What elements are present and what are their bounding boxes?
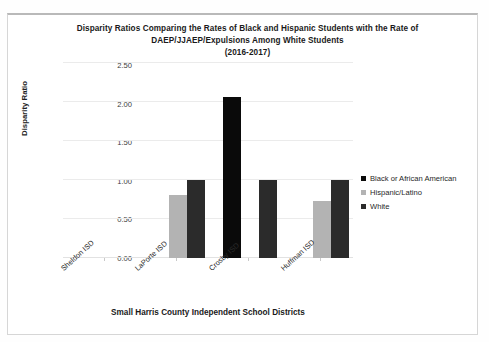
legend-swatch-black-icon — [361, 176, 366, 181]
bar-huffman-white[interactable] — [331, 180, 349, 258]
plot-area — [63, 62, 353, 258]
legend-swatch-dark-icon — [361, 204, 366, 209]
legend-item-hispanic-latino[interactable]: Hispanic/Latino — [361, 185, 457, 199]
bar-laporte-hispanic[interactable] — [169, 195, 187, 258]
bar-group-laporte-isd — [145, 62, 207, 258]
bar-group-sheldon-isd — [73, 62, 135, 258]
bar-chart: Disparity Ratios Comparing the Rates of … — [0, 0, 489, 342]
legend-label-black-or-african-american: Black or African American — [370, 174, 457, 183]
chart-title-line-1: Disparity Ratios Comparing the Rates of … — [40, 23, 455, 35]
bar-huffman-hispanic[interactable] — [313, 201, 331, 258]
legend-item-white[interactable]: White — [361, 199, 457, 213]
bar-laporte-white[interactable] — [187, 180, 205, 258]
x-tick-mark-sheldon — [104, 258, 105, 261]
y-axis-label: Disparity Ratio — [20, 81, 29, 136]
legend-label-hispanic-latino: Hispanic/Latino — [370, 188, 422, 197]
legend-label-white: White — [370, 202, 389, 211]
bar-crosby-white[interactable] — [259, 180, 277, 258]
chart-title-line-3: (2016-2017) — [40, 47, 455, 59]
bar-group-crosby-isd — [217, 62, 279, 258]
x-tick-mark-laporte — [176, 258, 177, 261]
legend-item-black-or-african-american[interactable]: Black or African American — [361, 171, 457, 185]
x-tick-mark-huffman — [320, 258, 321, 261]
chart-title-line-2: DAEP/JJAEP/Expulsions Among White Studen… — [40, 35, 455, 47]
screenshot-page: Disparity Ratios Comparing the Rates of … — [0, 0, 489, 342]
chart-legend: Black or African American Hispanic/Latin… — [361, 171, 457, 213]
x-axis-label: Small Harris County Independent School D… — [63, 308, 353, 317]
bar-group-huffman-isd — [289, 62, 351, 258]
chart-title: Disparity Ratios Comparing the Rates of … — [40, 23, 455, 60]
x-tick-mark-crosby — [248, 258, 249, 261]
legend-swatch-gray-icon — [361, 190, 366, 195]
bar-crosby-black[interactable] — [223, 97, 241, 258]
